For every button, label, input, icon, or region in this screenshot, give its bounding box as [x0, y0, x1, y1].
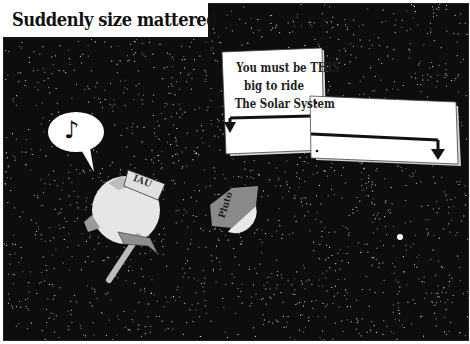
- music-note-icon: ♪: [64, 116, 79, 144]
- sign-line-3: The Solar System: [235, 96, 314, 111]
- illustration: [0, 0, 470, 344]
- cartoon-panel: Suddenly size mattered ...: [0, 0, 470, 344]
- sign-line-1: You must be THIS: [236, 60, 311, 75]
- sign-line-2: big to ride: [236, 78, 311, 93]
- iau-planet-character: [84, 170, 165, 280]
